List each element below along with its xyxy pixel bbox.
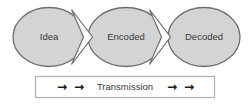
node-idea-label: Idea bbox=[40, 31, 59, 42]
communication-flow-diagram: Idea Encoded Decoded → → Transmission → bbox=[0, 0, 250, 106]
transmission-label: Transmission bbox=[97, 81, 153, 92]
transmission-bar[interactable]: → → Transmission → → bbox=[36, 77, 215, 98]
transmission-arrow-right-1: → bbox=[167, 80, 177, 94]
node-decoded[interactable]: Decoded bbox=[168, 8, 240, 67]
flow-diagram-canvas: Idea Encoded Decoded → → Transmission → bbox=[0, 0, 250, 106]
transmission-arrow-left-2: → bbox=[74, 80, 84, 94]
transmission-arrow-right-2: → bbox=[184, 80, 194, 94]
node-encoded-label: Encoded bbox=[107, 31, 145, 42]
node-decoded-label: Decoded bbox=[185, 31, 223, 42]
transmission-arrow-left-1: → bbox=[57, 80, 67, 94]
